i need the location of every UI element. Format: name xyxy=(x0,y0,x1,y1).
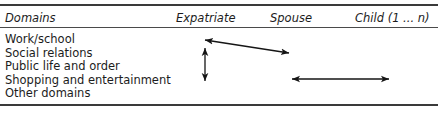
column-header-domains: Domains xyxy=(5,11,56,25)
column-header-spouse: Spouse xyxy=(270,11,312,25)
domain-row-list: Work/school Social relations Public life… xyxy=(5,33,195,101)
table-header-rule xyxy=(0,27,438,28)
table-bottom-rule xyxy=(0,104,438,106)
table-top-rule xyxy=(0,4,438,6)
table-row: Other domains xyxy=(5,87,195,101)
table-row: Social relations xyxy=(5,47,195,61)
domains-relationship-table: Domains Expatriate Spouse Child (1 ... n… xyxy=(0,0,438,115)
table-row: Shopping and entertainment xyxy=(5,74,195,88)
column-header-expatriate: Expatriate xyxy=(176,11,235,25)
table-row: Public life and order xyxy=(5,60,195,74)
column-header-child: Child (1 ... n) xyxy=(355,11,430,25)
table-row: Work/school xyxy=(5,33,195,47)
arrow-expatriate-spouse-diagonal xyxy=(205,40,289,53)
